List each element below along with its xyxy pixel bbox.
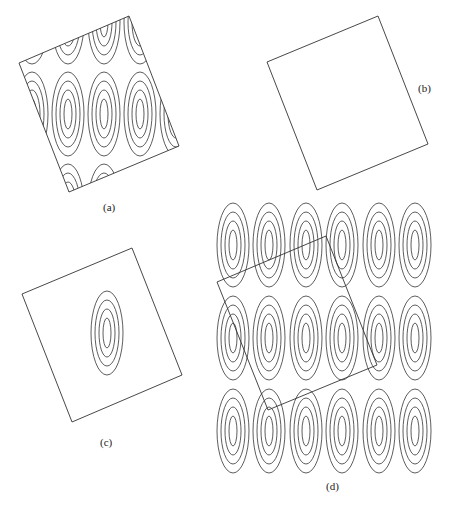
panel-c: (c) bbox=[22, 248, 182, 449]
panel-c-square bbox=[22, 248, 182, 422]
panel-c-label: (c) bbox=[100, 436, 113, 449]
panel-a-label: (a) bbox=[103, 201, 116, 214]
panel-b: (b) bbox=[267, 16, 431, 190]
figure-canvas: (a) (b) (c) (d) bbox=[0, 0, 450, 509]
panel-d-lattice bbox=[217, 203, 431, 473]
panel-c-ellipse bbox=[91, 291, 123, 375]
panel-d: (d) bbox=[217, 203, 431, 493]
panel-b-square bbox=[267, 16, 428, 190]
panel-a: (a) bbox=[16, 0, 192, 248]
panel-d-label: (d) bbox=[326, 480, 339, 493]
panel-b-label: (b) bbox=[418, 82, 431, 95]
